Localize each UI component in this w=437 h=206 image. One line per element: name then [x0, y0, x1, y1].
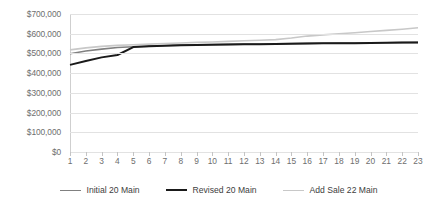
y-tick-label: $700,000	[0, 10, 61, 19]
gridline	[70, 113, 418, 114]
x-tick-label: 10	[208, 156, 217, 167]
x-tick-label: 14	[271, 156, 280, 167]
x-tick	[117, 152, 118, 156]
x-tick-label: 11	[224, 156, 233, 167]
y-tick-label: $100,000	[0, 128, 61, 137]
x-tick-label: 19	[350, 156, 359, 167]
y-axis: $700,000$600,000$500,000$400,000$300,000…	[0, 0, 64, 160]
legend-label: Initial 20 Main	[87, 185, 140, 195]
gridline	[70, 53, 418, 54]
x-tick	[212, 152, 213, 156]
x-tick	[291, 152, 292, 156]
y-tick-label: $200,000	[0, 108, 61, 117]
gridline	[70, 73, 418, 74]
y-tick-label: $0	[0, 148, 61, 157]
x-tick	[276, 152, 277, 156]
legend-color-swatch	[166, 189, 187, 191]
gridline	[70, 34, 418, 35]
x-tick	[418, 152, 419, 156]
x-tick-label: 15	[287, 156, 296, 167]
legend-item[interactable]: Revised 20 Main	[166, 185, 257, 195]
y-tick-label: $300,000	[0, 88, 61, 97]
x-tick-label: 4	[115, 156, 120, 167]
x-tick-label: 20	[366, 156, 375, 167]
y-tick-label: $400,000	[0, 69, 61, 78]
x-tick-label: 8	[178, 156, 183, 167]
gridline	[70, 14, 418, 15]
x-tick-label: 5	[131, 156, 136, 167]
x-tick-label: 12	[239, 156, 248, 167]
x-tick	[307, 152, 308, 156]
x-tick-label: 22	[398, 156, 407, 167]
x-tick	[133, 152, 134, 156]
gridline	[70, 93, 418, 94]
x-tick-label: 21	[382, 156, 391, 167]
legend-item[interactable]: Add Sale 22 Main	[283, 185, 378, 195]
x-tick	[102, 152, 103, 156]
y-tick-label: $500,000	[0, 49, 61, 58]
x-tick	[386, 152, 387, 156]
x-tick	[371, 152, 372, 156]
x-tick	[323, 152, 324, 156]
line-chart: $700,000$600,000$500,000$400,000$300,000…	[0, 0, 437, 206]
x-tick	[149, 152, 150, 156]
legend-label: Revised 20 Main	[193, 185, 257, 195]
x-tick	[339, 152, 340, 156]
x-tick	[165, 152, 166, 156]
x-tick-label: 16	[303, 156, 312, 167]
x-tick	[70, 152, 71, 156]
x-tick	[355, 152, 356, 156]
legend-color-swatch	[60, 190, 81, 191]
x-tick-label: 17	[318, 156, 327, 167]
x-tick	[260, 152, 261, 156]
x-tick-label: 3	[99, 156, 104, 167]
x-tick-label: 23	[413, 156, 422, 167]
y-tick-label: $600,000	[0, 29, 61, 38]
x-tick	[228, 152, 229, 156]
x-tick	[181, 152, 182, 156]
x-tick	[86, 152, 87, 156]
x-tick-label: 1	[68, 156, 73, 167]
x-tick	[197, 152, 198, 156]
legend: Initial 20 MainRevised 20 MainAdd Sale 2…	[0, 181, 437, 199]
gridline	[70, 132, 418, 133]
x-axis: 1234567891011121314151617181920212223	[70, 156, 418, 170]
x-tick-label: 2	[83, 156, 88, 167]
plot-area	[70, 14, 418, 152]
x-tick-label: 13	[255, 156, 264, 167]
legend-item[interactable]: Initial 20 Main	[60, 185, 140, 195]
legend-color-swatch	[283, 190, 304, 191]
x-tick	[244, 152, 245, 156]
legend-label: Add Sale 22 Main	[310, 185, 378, 195]
x-tick-label: 9	[194, 156, 199, 167]
x-tick-label: 18	[334, 156, 343, 167]
x-tick	[402, 152, 403, 156]
x-tick-label: 6	[147, 156, 152, 167]
x-tick-label: 7	[163, 156, 168, 167]
